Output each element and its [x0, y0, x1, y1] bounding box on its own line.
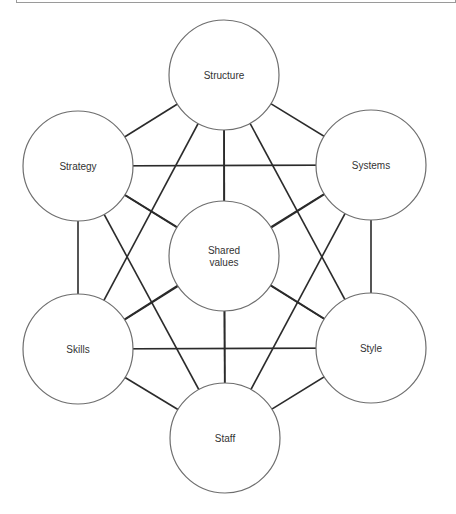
node-shared-values: Sharedvalues [169, 201, 279, 311]
node-label: values [210, 257, 239, 268]
node-label: Staff [215, 433, 236, 444]
nodes: StructureStrategySystemsSharedvaluesSkil… [23, 20, 426, 493]
node-label: Strategy [59, 161, 96, 172]
node-skills: Skills [23, 294, 133, 404]
node-systems: Systems [316, 110, 426, 220]
node-label: Shared [208, 245, 240, 256]
node-strategy: Strategy [23, 111, 133, 221]
node-label: Systems [352, 160, 390, 171]
node-style: Style [316, 293, 426, 403]
node-label: Style [360, 343, 383, 354]
node-label: Structure [204, 70, 245, 81]
node-staff: Staff [170, 383, 280, 493]
node-label: Skills [66, 344, 89, 355]
node-structure: Structure [169, 20, 279, 130]
